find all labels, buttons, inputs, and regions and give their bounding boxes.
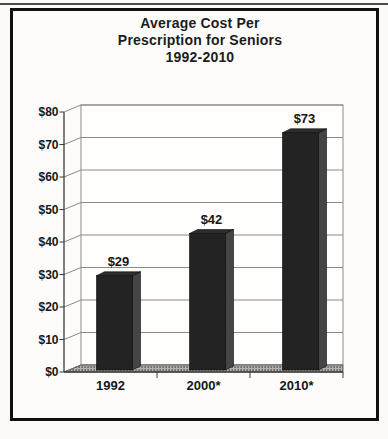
y-tick-label-$10: $10: [38, 333, 58, 347]
y-tick-label-$60: $60: [38, 170, 58, 184]
bar-value-label-2000*: $42: [201, 212, 223, 227]
bar-chart-svg: $0$10$20$30$40$50$60$70$80$291992$422000…: [0, 0, 388, 439]
y-tick-label-$30: $30: [38, 268, 58, 282]
y-tick-label-$0: $0: [45, 365, 59, 379]
y-tick-label-$40: $40: [38, 235, 58, 249]
bar-2010*: [283, 133, 319, 370]
x-category-label-1992: 1992: [96, 378, 125, 393]
bar-side-2000*: [226, 230, 234, 371]
bar-2000*: [190, 234, 226, 371]
bar-value-label-1992: $29: [108, 254, 130, 269]
bar-value-label-2010*: $73: [294, 111, 316, 126]
bar-top-1992: [97, 272, 141, 276]
y-tick-label-$80: $80: [38, 105, 58, 119]
scanned-figure-page: Average Cost Per Prescription for Senior…: [0, 0, 388, 439]
bar-side-2010*: [319, 129, 327, 370]
bar-1992: [97, 276, 133, 370]
x-category-label-2000*: 2000*: [187, 378, 222, 393]
x-category-label-2010*: 2010*: [280, 378, 315, 393]
bar-top-2000*: [190, 230, 234, 234]
y-tick-label-$20: $20: [38, 300, 58, 314]
y-tick-label-$50: $50: [38, 203, 58, 217]
bar-top-2010*: [283, 129, 327, 133]
bar-side-1992: [133, 272, 141, 370]
y-tick-label-$70: $70: [38, 138, 58, 152]
